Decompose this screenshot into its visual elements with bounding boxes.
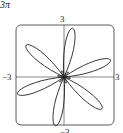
polar-plot (0, 0, 123, 133)
